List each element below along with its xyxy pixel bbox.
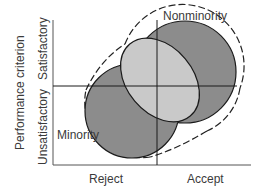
x-label-accept: Accept [187, 172, 224, 186]
nonminority-label: Nonminority [163, 9, 227, 23]
minority-label: Minority [57, 128, 99, 142]
y-axis-title: Performance criterion [13, 35, 27, 150]
y-label-unsatisfactory: Unsatisfactory [36, 89, 50, 165]
x-label-reject: Reject [89, 172, 124, 186]
y-label-satisfactory: Satisfactory [36, 17, 50, 80]
diagram-canvas: Nonminority Minority Reject Accept Satis… [0, 0, 264, 190]
